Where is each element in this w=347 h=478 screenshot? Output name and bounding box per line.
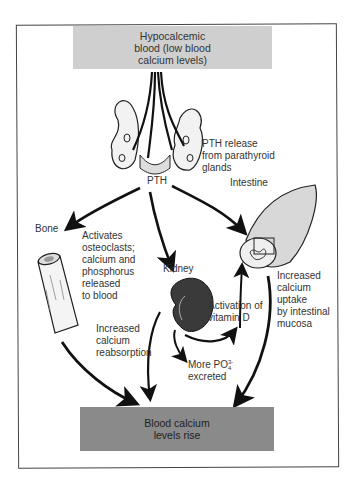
phosphate-label: More PO3-4 excreted	[188, 359, 233, 383]
label-line: Activates	[82, 230, 135, 242]
pth-label: PTH	[147, 175, 167, 187]
label-line: from parathyroid	[202, 150, 275, 162]
label-line: More PO	[188, 359, 228, 370]
label-line: uptake	[277, 294, 330, 306]
blood-calcium-rises-box: Blood calcium levels rise	[80, 407, 274, 451]
label-line: excreted	[188, 371, 233, 383]
intestine-icon	[240, 185, 316, 268]
bone-label: Bone	[35, 223, 58, 235]
label-line: Activation of	[208, 300, 262, 312]
label-line: to blood	[82, 290, 135, 302]
label-line: PTH release	[202, 138, 275, 150]
label-line: mucosa	[277, 318, 330, 330]
bone-icon	[37, 251, 78, 333]
parathyroid-glands-icon	[111, 72, 202, 174]
label-line: osteoclasts;	[82, 242, 135, 254]
label-line: glands	[202, 162, 275, 174]
label-line: Increased	[277, 270, 330, 282]
vitamin-d-label: Activation of vitamin D	[208, 300, 262, 324]
result-line: Blood calcium	[144, 417, 209, 429]
kidney-icon	[171, 278, 213, 331]
arrow-kidney-to-phosphate	[174, 330, 185, 360]
pth-release-label: PTH release from parathyroid glands	[202, 138, 275, 174]
label-line: calcium and	[82, 254, 135, 266]
label-line: by intestinal	[277, 306, 330, 318]
label-line: vitamin D	[208, 312, 262, 324]
reabsorption-label: Increased calcium reabsorption	[96, 323, 152, 359]
arrow-pth-to-kidney	[150, 192, 172, 268]
intestine-label: Intestine	[230, 177, 268, 189]
label-line: calcium	[277, 282, 330, 294]
intestine-effect-label: Increased calcium uptake by intestinal m…	[277, 270, 330, 330]
arrow-pth-to-bone	[68, 188, 140, 228]
label-line: phosphorus	[82, 266, 135, 278]
result-line: levels rise	[144, 429, 209, 441]
label-line: released	[82, 278, 135, 290]
phosphate-subscript: 4	[228, 365, 233, 371]
arrow-pth-to-intestine	[172, 186, 244, 232]
label-line: calcium	[96, 335, 152, 347]
bone-effect-label: Activates osteoclasts; calcium and phosp…	[82, 230, 135, 302]
label-line: reabsorption	[96, 347, 152, 359]
kidney-label: Kidney	[163, 263, 194, 275]
label-line: Increased	[96, 323, 152, 335]
